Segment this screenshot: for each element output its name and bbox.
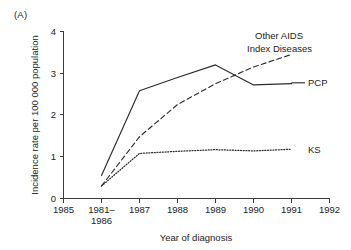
series-line-pcp [102, 65, 292, 176]
y-tick-label-2: 2 [51, 109, 56, 120]
y-axis-ticks [60, 32, 64, 199]
x-tick-label-1981-1986-line1: 1981– [88, 204, 115, 215]
x-axis-tick-labels: 1985 1981– 1986 1987 1988 1989 1990 1991… [53, 204, 340, 226]
x-tick-label-1990: 1990 [243, 204, 264, 215]
series-label-other-aids-line1: Other AIDS [255, 30, 303, 41]
series-line-ks [102, 149, 292, 186]
x-tick-label-1981-1986-line2: 1986 [91, 215, 112, 226]
y-axis-title: Incidence rate per 100 000 population [29, 35, 40, 195]
x-tick-label-1988: 1988 [167, 204, 188, 215]
series-label-ks: KS [308, 144, 321, 155]
y-tick-label-1: 1 [51, 151, 56, 162]
x-tick-label-1989: 1989 [205, 204, 226, 215]
y-axis-tick-labels: 0 1 2 3 4 [51, 26, 56, 204]
series-label-other-aids-line2: Index Diseases [247, 43, 312, 54]
y-tick-label-0: 0 [51, 193, 56, 204]
x-axis-ticks [64, 199, 330, 203]
x-axis-title: Year of diagnosis [160, 232, 233, 243]
series-label-pcp: PCP [308, 77, 328, 88]
x-tick-label-1991: 1991 [281, 204, 302, 215]
x-tick-label-1985: 1985 [53, 204, 74, 215]
line-chart: 0 1 2 3 4 1985 1981– 1986 1987 1988 1989… [0, 0, 351, 250]
y-tick-label-3: 3 [51, 68, 56, 79]
x-tick-label-1992: 1992 [319, 204, 340, 215]
x-tick-label-1987: 1987 [129, 204, 150, 215]
figure-panel-a: (A) 0 1 2 3 4 [0, 0, 351, 250]
y-tick-label-4: 4 [51, 26, 56, 37]
series-line-other-aids-index-diseases [102, 54, 292, 186]
